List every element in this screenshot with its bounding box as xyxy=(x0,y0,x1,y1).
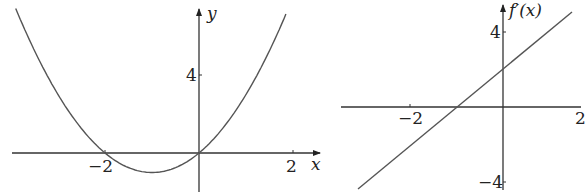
left-tick-label-x-neg2: −2 xyxy=(88,158,113,175)
right-tick-label-x-2: 2 xyxy=(575,110,586,127)
left-tick-label-y-4: 4 xyxy=(186,67,197,84)
left-x-axis-label: x xyxy=(311,156,321,173)
derivative-line xyxy=(358,12,572,189)
right-tick-label-y-neg4: −4 xyxy=(478,174,503,191)
right-tick-label-y-4: 4 xyxy=(490,24,501,41)
parabola-curve xyxy=(16,9,286,173)
right-tick-label-x-neg2: −2 xyxy=(398,110,423,127)
right-y-axis-label: f′(x) xyxy=(509,2,542,19)
left-graph xyxy=(12,9,320,193)
left-y-axis-label: y xyxy=(207,5,217,22)
right-graph xyxy=(341,5,581,190)
left-tick-label-x-2: 2 xyxy=(286,158,297,175)
